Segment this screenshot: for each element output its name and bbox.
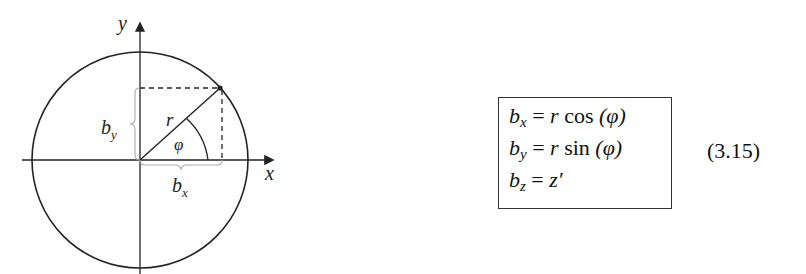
- angle-arc: [186, 118, 208, 160]
- equation-bz: bz = z′: [509, 167, 671, 199]
- point: [217, 85, 222, 90]
- brace-bx: [140, 160, 222, 170]
- x-axis-label: x: [264, 162, 274, 184]
- radius-label: r: [166, 109, 174, 130]
- boxed-equations: bx = r cos (φ) by = r sin (φ) bz = z′: [498, 97, 672, 209]
- equation-bx: bx = r cos (φ): [509, 103, 671, 135]
- brace-by: [130, 88, 140, 160]
- angle-label: φ: [174, 135, 183, 154]
- y-axis-label: y: [116, 12, 127, 35]
- polar-coordinate-diagram: y x r φ by bx: [0, 0, 300, 274]
- bx-label: bx: [172, 174, 188, 200]
- equation-number: (3.15): [707, 138, 760, 164]
- equation-by: by = r sin (φ): [509, 135, 671, 167]
- by-label: by: [101, 116, 117, 142]
